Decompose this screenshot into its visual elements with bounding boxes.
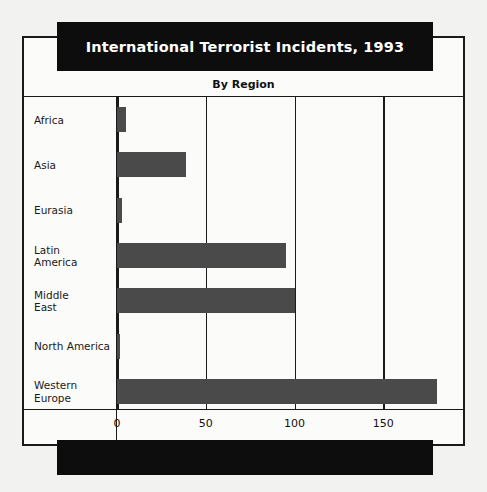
x-tick-label: 0 [114, 417, 121, 430]
chart-subtitle: By Region [212, 78, 274, 91]
bar [117, 198, 122, 223]
bar-row [117, 379, 463, 404]
category-label: Asia [34, 159, 56, 172]
category-label: Africa [34, 113, 64, 126]
bottom-banner [57, 440, 433, 475]
bar-row [117, 198, 463, 223]
bar [117, 107, 126, 132]
bar-row [117, 152, 463, 177]
bar [117, 334, 120, 359]
bar-row [117, 334, 463, 359]
bar-row [117, 288, 463, 313]
x-tick-label: 50 [199, 417, 213, 430]
bar [117, 243, 286, 268]
category-label: North America [34, 340, 110, 353]
bar [117, 288, 295, 313]
category-label: Western Europe [34, 379, 77, 404]
plot-area [117, 97, 463, 410]
bar [117, 152, 186, 177]
x-axis: 050100150 [24, 409, 463, 444]
chart-frame: By Region AfricaAsiaEurasiaLatin America… [22, 36, 465, 446]
chart-title: International Terrorist Incidents, 1993 [86, 39, 405, 55]
bar [117, 379, 437, 404]
chart-figure: By Region AfricaAsiaEurasiaLatin America… [0, 0, 487, 492]
category-label-column: AfricaAsiaEurasiaLatin AmericaMiddle Eas… [24, 97, 117, 444]
category-label: Middle East [34, 288, 69, 313]
plot-region: AfricaAsiaEurasiaLatin AmericaMiddle Eas… [24, 97, 463, 444]
title-banner: International Terrorist Incidents, 1993 [57, 22, 433, 71]
bar-row [117, 243, 463, 268]
category-label: Eurasia [34, 204, 73, 217]
category-label: Latin America [34, 243, 77, 268]
x-tick-label: 100 [284, 417, 305, 430]
x-tick-label: 150 [373, 417, 394, 430]
bar-row [117, 107, 463, 132]
